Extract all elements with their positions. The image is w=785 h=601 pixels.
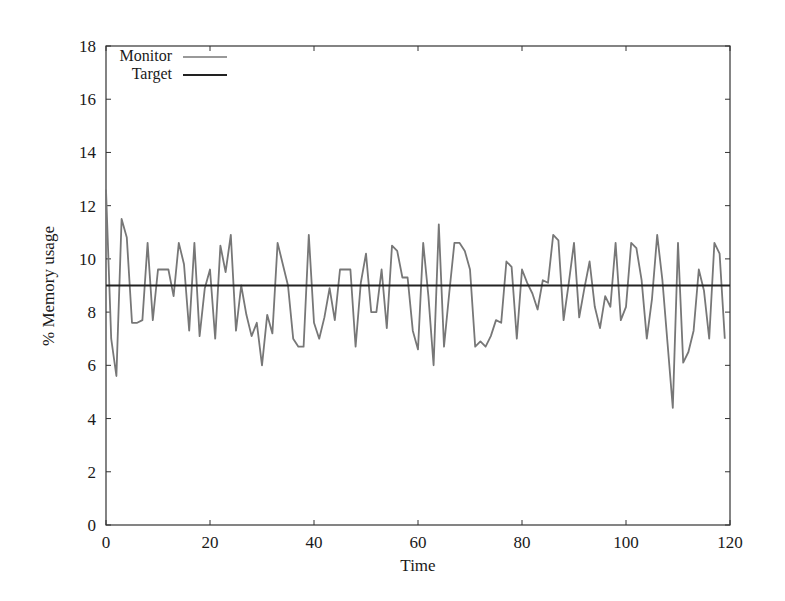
- y-tick-label: 8: [88, 303, 97, 322]
- series-layer: [106, 190, 730, 408]
- legend-label-target: Target: [132, 65, 173, 83]
- x-tick-label: 120: [717, 533, 743, 552]
- memory-usage-chart: 024681012141618 020406080100120 Time % M…: [0, 0, 785, 601]
- y-tick-label: 4: [88, 410, 97, 429]
- y-tick-label: 0: [88, 516, 97, 535]
- legend-label-monitor: Monitor: [120, 47, 173, 64]
- series-line-monitor: [106, 190, 725, 408]
- y-tick-label: 16: [79, 90, 96, 109]
- legend: Monitor Target: [120, 47, 227, 83]
- x-tick-label: 40: [306, 533, 323, 552]
- y-tick-label: 12: [79, 197, 96, 216]
- x-tick-label: 80: [514, 533, 531, 552]
- x-tick-label: 20: [202, 533, 219, 552]
- y-axis-label: % Memory usage: [39, 226, 58, 346]
- y-tick-label: 18: [79, 37, 96, 56]
- x-tick-label: 0: [102, 533, 111, 552]
- x-tick-label: 60: [410, 533, 427, 552]
- y-tick-label: 2: [88, 463, 97, 482]
- x-tick-label: 100: [613, 533, 639, 552]
- x-axis-label: Time: [400, 556, 435, 575]
- y-tick-label: 6: [88, 356, 97, 375]
- y-tick-label: 10: [79, 250, 96, 269]
- y-tick-label: 14: [79, 143, 97, 162]
